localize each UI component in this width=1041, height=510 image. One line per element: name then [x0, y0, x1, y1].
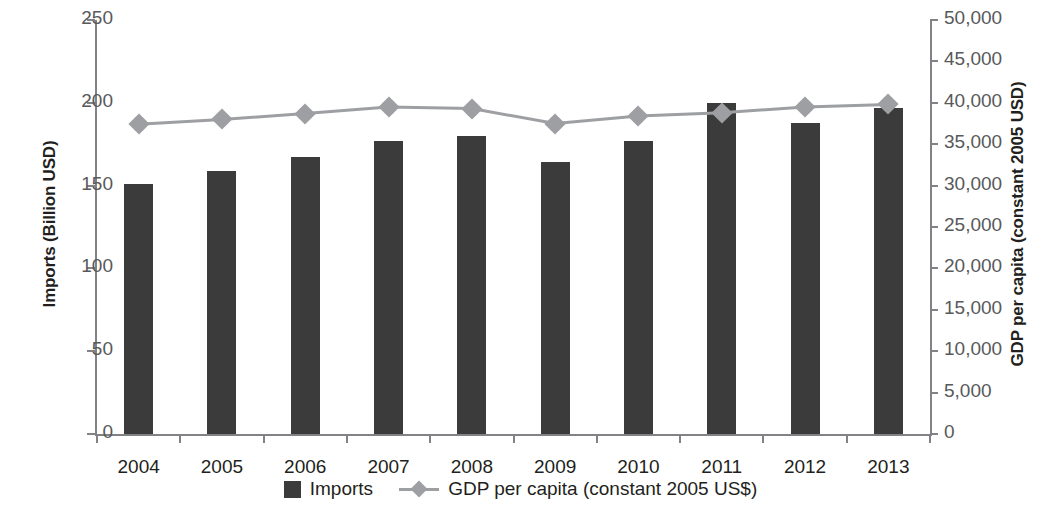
- legend-bar-swatch-icon: [284, 481, 301, 498]
- right-axis-tick: [930, 267, 938, 269]
- right-axis-tick-label: 10,000: [944, 338, 1041, 360]
- x-axis-label: 2011: [680, 456, 764, 478]
- x-axis-label: 2009: [513, 456, 597, 478]
- legend-label: Imports: [310, 478, 373, 500]
- x-axis-tick: [179, 434, 181, 443]
- x-axis-tick: [762, 434, 764, 443]
- x-axis-label: 2005: [180, 456, 264, 478]
- x-axis-label: 2010: [596, 456, 680, 478]
- x-axis-tick: [513, 434, 515, 443]
- right-axis-tick-label: 15,000: [944, 297, 1041, 319]
- x-axis-tick: [929, 434, 931, 443]
- right-axis-tick: [930, 143, 938, 145]
- right-axis-tick-label: 45,000: [944, 48, 1041, 70]
- right-axis-tick-label: 0: [944, 421, 1041, 443]
- x-axis-label: 2008: [430, 456, 514, 478]
- legend-line-marker-icon: [399, 482, 439, 497]
- right-axis-tick: [930, 392, 938, 394]
- right-axis-tick-label: 25,000: [944, 214, 1041, 236]
- x-axis-label: 2004: [97, 456, 181, 478]
- right-axis-tick: [930, 185, 938, 187]
- line-series: [97, 20, 930, 434]
- right-axis-tick-label: 50,000: [944, 7, 1041, 29]
- plot-area: 050100150200250 05,00010,00015,00020,000…: [97, 20, 930, 434]
- right-axis-tick-label: 40,000: [944, 90, 1041, 112]
- legend-item[interactable]: GDP per capita (constant 2005 US$): [399, 478, 757, 500]
- x-axis-label: 2007: [347, 456, 431, 478]
- x-axis-label: 2012: [763, 456, 847, 478]
- right-axis-tick-label: 35,000: [944, 131, 1041, 153]
- right-axis-tick: [930, 19, 938, 21]
- right-axis-tick: [930, 226, 938, 228]
- x-axis-tick: [679, 434, 681, 443]
- right-axis-tick: [930, 433, 938, 435]
- right-axis-tick-label: 30,000: [944, 173, 1041, 195]
- right-axis-tick: [930, 350, 938, 352]
- x-axis-tick: [846, 434, 848, 443]
- right-axis-tick: [930, 309, 938, 311]
- right-axis-tick: [930, 60, 938, 62]
- x-axis-tick: [596, 434, 598, 443]
- right-axis-tick: [930, 102, 938, 104]
- chart-legend: ImportsGDP per capita (constant 2005 US$…: [0, 478, 1041, 500]
- x-axis-label: 2006: [263, 456, 347, 478]
- right-axis-tick-label: 5,000: [944, 380, 1041, 402]
- legend-label: GDP per capita (constant 2005 US$): [448, 478, 757, 500]
- x-axis-tick: [96, 434, 98, 443]
- x-axis-tick: [346, 434, 348, 443]
- x-axis-tick: [429, 434, 431, 443]
- x-axis-label: 2013: [846, 456, 930, 478]
- left-axis-title: Imports (Billion USD): [40, 14, 60, 434]
- right-axis-tick-label: 20,000: [944, 255, 1041, 277]
- x-axis-tick: [263, 434, 265, 443]
- legend-item[interactable]: Imports: [284, 478, 373, 500]
- chart-container: Imports (Billion USD) GDP per capita (co…: [0, 0, 1041, 510]
